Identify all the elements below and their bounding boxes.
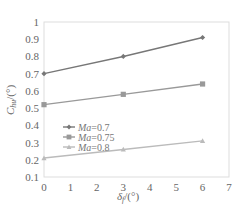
square-marker-icon: [121, 92, 126, 97]
y-tick-label: 0.5: [25, 102, 39, 114]
y-tick-label: 0.9: [25, 33, 39, 45]
series-line: [41, 81, 205, 107]
square-marker-icon: [67, 135, 72, 140]
series-group: [41, 35, 205, 160]
x-tick-label: 6: [200, 181, 206, 193]
legend-item: Ma=0.8: [63, 142, 109, 153]
square-marker-icon: [200, 81, 205, 86]
x-tick-label: 7: [226, 181, 232, 193]
y-tick-label: 0.4: [25, 119, 39, 131]
square-marker-icon: [41, 102, 46, 107]
y-tick-label: 0.1: [25, 171, 39, 183]
y-tick-label: 0.2: [25, 154, 39, 166]
y-tick-label: 0.3: [25, 137, 39, 149]
legend-label: Ma=0.8: [77, 142, 109, 153]
series-line: [41, 138, 205, 160]
y-tick-label: 0.7: [25, 68, 39, 80]
y-axis-label: Chu/(°): [4, 85, 18, 115]
x-axis-label: δf/(°): [117, 190, 139, 204]
x-tick-label: 0: [41, 181, 47, 193]
x-tick-label: 4: [147, 181, 153, 193]
line-chart: 0.10.20.30.40.50.60.70.80.91 01234567 Ma…: [0, 0, 246, 213]
plot-frame: [44, 22, 229, 177]
x-tick-label: 2: [94, 181, 100, 193]
series-line: [41, 35, 205, 76]
y-axis-ticks: 0.10.20.30.40.50.60.70.80.91: [25, 16, 39, 183]
x-tick-label: 5: [173, 181, 179, 193]
legend: Ma=0.7Ma=0.75Ma=0.8: [63, 122, 114, 153]
diamond-marker-icon: [200, 35, 205, 40]
diamond-marker-icon: [67, 125, 72, 130]
y-tick-label: 0.6: [25, 85, 39, 97]
diamond-marker-icon: [121, 54, 126, 59]
y-tick-label: 0.8: [25, 50, 39, 62]
diamond-marker-icon: [41, 71, 46, 76]
x-tick-label: 1: [68, 181, 74, 193]
y-tick-label: 1: [34, 16, 40, 28]
